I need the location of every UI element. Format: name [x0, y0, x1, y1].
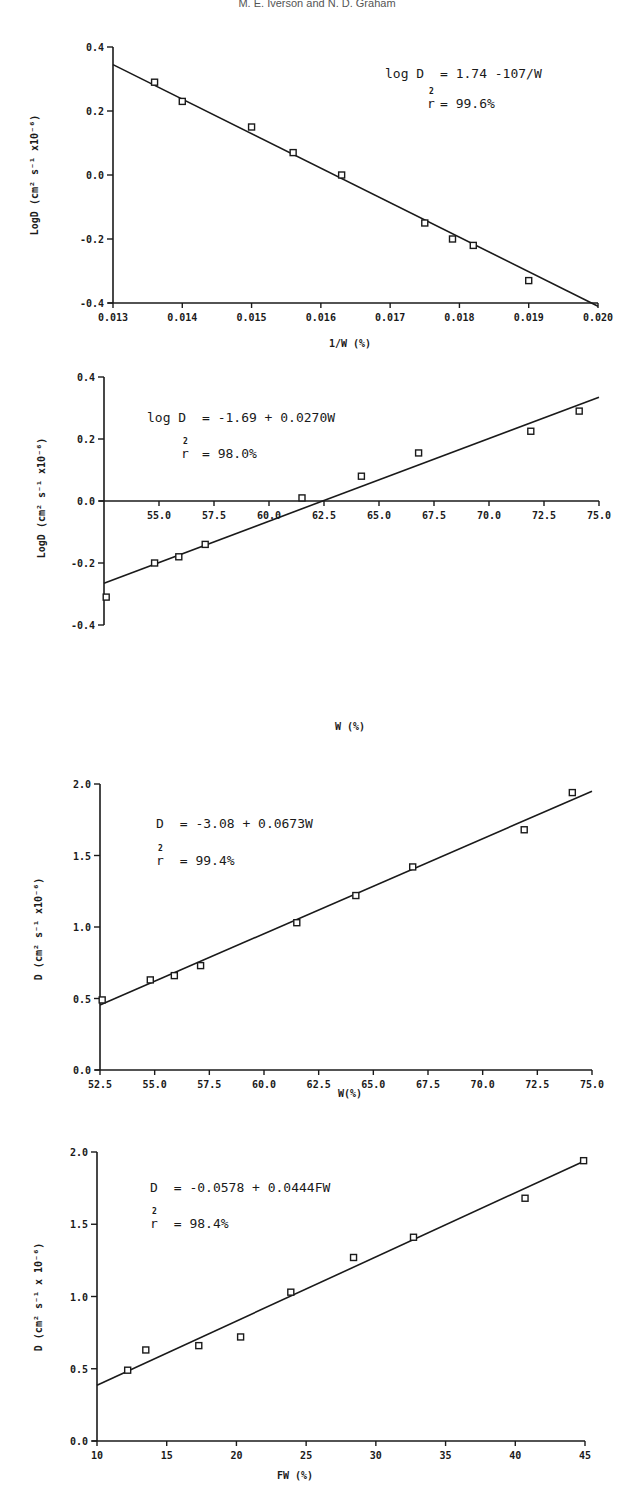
y-tick-label: -0.4 [71, 620, 95, 631]
x-tick-label: 10 [91, 1450, 103, 1461]
y-tick-label: 1.5 [70, 1219, 88, 1230]
data-point [143, 1347, 149, 1353]
x-tick-label: 65.0 [367, 510, 391, 521]
y-axis-label: D (cm² s⁻¹ x 10⁻⁶) [33, 1243, 44, 1351]
r-squared-value: = 98.0% [202, 446, 257, 461]
x-tick-label: 60.0 [252, 1079, 276, 1090]
chart-logd-vs-w: -0.4-0.20.00.20.455.057.560.062.565.067.… [0, 350, 634, 750]
x-tick-label: 57.5 [197, 1079, 221, 1090]
x-tick-label: 40 [509, 1450, 521, 1461]
x-tick-label: 57.5 [202, 510, 226, 521]
r-squared-value: = 99.4% [180, 853, 235, 868]
r-squared-superscript: 2 [183, 437, 188, 446]
x-tick-label: 67.5 [422, 510, 446, 521]
x-tick-label: 67.5 [416, 1079, 440, 1090]
y-tick-label: -0.4 [80, 298, 104, 309]
r-squared-label: r [156, 853, 164, 868]
data-point [176, 554, 182, 560]
data-point [522, 1195, 528, 1201]
x-tick-label: 70.0 [477, 510, 501, 521]
data-point [569, 790, 575, 796]
x-tick-label: 0.017 [375, 312, 405, 323]
y-tick-label: 2.0 [73, 779, 91, 790]
data-point [198, 963, 204, 969]
data-point [288, 1289, 294, 1295]
x-tick-label: 20 [230, 1450, 242, 1461]
y-tick-label: 0.2 [77, 434, 95, 445]
x-axis-label: W(%) [338, 1088, 362, 1099]
x-tick-label: 72.5 [532, 510, 556, 521]
y-tick-label: -0.2 [71, 558, 95, 569]
equation-lhs: log D [147, 410, 186, 425]
data-point [249, 124, 255, 130]
x-axis-label: 1/W (%) [329, 338, 371, 349]
x-tick-label: 52.5 [88, 1079, 112, 1090]
data-point [581, 1158, 587, 1164]
data-point [351, 1254, 357, 1260]
x-tick-label: 75.0 [587, 510, 611, 521]
x-tick-label: 55.0 [147, 510, 171, 521]
data-point [410, 864, 416, 870]
chart-logd-vs-inverse-w: -0.4-0.20.00.20.40.0130.0140.0150.0160.0… [0, 30, 634, 360]
x-axis-label: FW (%) [277, 1470, 313, 1481]
regression-line [97, 1161, 585, 1386]
x-tick-label: 65.0 [361, 1079, 385, 1090]
x-tick-label: 72.5 [525, 1079, 549, 1090]
y-tick-label: 2.0 [70, 1147, 88, 1158]
x-tick-label: 0.019 [514, 312, 544, 323]
r-squared-superscript: 2 [429, 87, 434, 96]
y-tick-label: 0.0 [77, 496, 95, 507]
chart-d-vs-w: 0.00.51.01.52.052.555.057.560.062.565.06… [0, 740, 634, 1110]
r-squared-label: r [150, 1216, 158, 1231]
x-tick-label: 15 [161, 1450, 173, 1461]
y-tick-label: 1.5 [73, 851, 91, 862]
data-point [152, 79, 158, 85]
data-point [450, 236, 456, 242]
x-tick-label: 0.020 [583, 312, 613, 323]
data-point [416, 450, 422, 456]
r-squared-superscript: 2 [158, 844, 163, 853]
data-point [99, 997, 105, 1003]
y-tick-label: 0.0 [86, 170, 104, 181]
data-point [422, 220, 428, 226]
data-point [179, 98, 185, 104]
data-point [521, 827, 527, 833]
data-point [339, 172, 345, 178]
x-tick-label: 70.0 [471, 1079, 495, 1090]
data-point [103, 594, 109, 600]
data-point [147, 977, 153, 983]
x-tick-label: 25 [300, 1450, 312, 1461]
y-tick-label: 1.0 [70, 1292, 88, 1303]
x-tick-label: 0.018 [444, 312, 474, 323]
equation-rhs: = -0.0578 + 0.0444FW [174, 1180, 331, 1195]
r-squared-value: = 99.6% [440, 96, 495, 111]
data-point [470, 242, 476, 248]
x-tick-label: 62.5 [312, 510, 336, 521]
chart-d-vs-fw: 0.00.51.01.52.01015202530354045 D = -0.0… [0, 1110, 634, 1510]
r-squared-label: r [181, 446, 189, 461]
y-axis-label: D (cm² s⁻¹ x10⁻⁶) [33, 878, 44, 980]
equation-rhs: = -3.08 + 0.0673W [180, 816, 313, 831]
page-header-text: M. E. Iverson and N. D. Graham [0, 0, 634, 12]
y-tick-label: 0.0 [70, 1436, 88, 1447]
x-tick-label: 30 [370, 1450, 382, 1461]
y-tick-label: 0.4 [86, 42, 104, 53]
r-squared-value: = 98.4% [174, 1216, 229, 1231]
x-tick-label: 55.0 [143, 1079, 167, 1090]
y-tick-label: 1.0 [73, 922, 91, 933]
data-point [125, 1367, 131, 1373]
r-squared-superscript: 2 [152, 1207, 157, 1216]
x-tick-label: 62.5 [307, 1079, 331, 1090]
x-tick-label: 0.016 [306, 312, 336, 323]
data-point [202, 541, 208, 547]
equation-lhs: log D [385, 66, 424, 81]
equation-rhs: = 1.74 -107/W [440, 66, 542, 81]
x-tick-label: 0.014 [167, 312, 197, 323]
y-tick-label: -0.2 [80, 234, 104, 245]
data-point [290, 150, 296, 156]
x-tick-label: 0.013 [98, 312, 128, 323]
data-point [171, 973, 177, 979]
data-point [411, 1234, 417, 1240]
data-point [526, 278, 532, 284]
x-tick-label: 45 [579, 1450, 591, 1461]
